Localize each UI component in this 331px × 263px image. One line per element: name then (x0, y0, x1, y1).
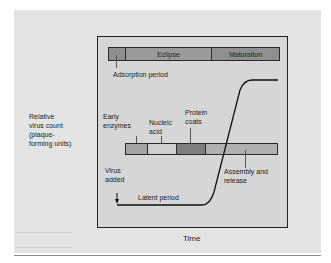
growth-curve (0, 0, 331, 263)
x-axis-label: Time (183, 234, 200, 243)
